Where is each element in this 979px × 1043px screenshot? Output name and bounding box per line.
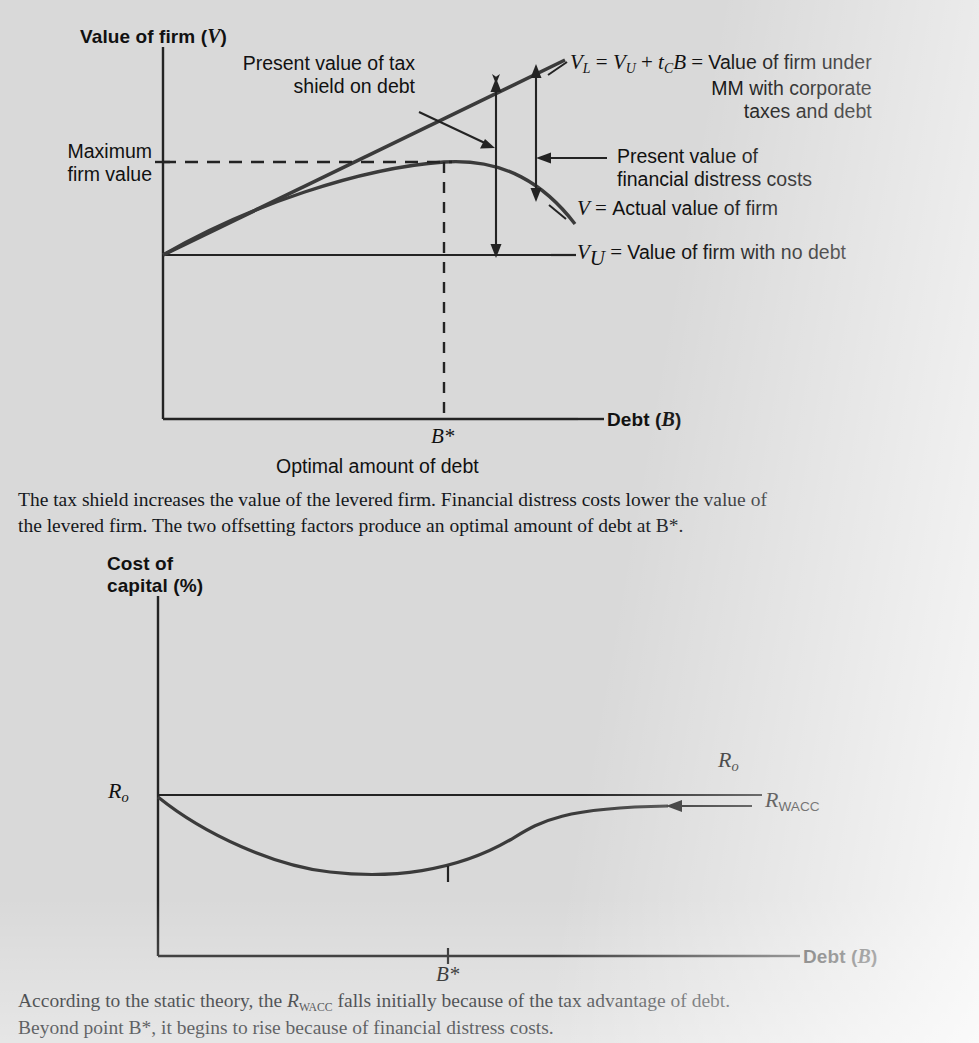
bottom-chart-b-star-tick-label: B* bbox=[436, 962, 459, 987]
bottom-x-axis-title-variable: B bbox=[857, 945, 870, 967]
bottom-chart-x-axis-title: Debt (B) bbox=[803, 945, 877, 969]
bottom-y-axis-title-line1: Cost of bbox=[107, 553, 203, 575]
rwacc-label: RWACC bbox=[765, 787, 820, 815]
r0-axis-label: Ro bbox=[108, 778, 129, 806]
rwacc-leader-arrowhead bbox=[666, 800, 682, 812]
r0-line-label: Ro bbox=[718, 747, 739, 775]
bottom-chart-y-axis-title: Cost of capital (%) bbox=[107, 553, 203, 598]
bottom-chart-graphics bbox=[0, 0, 979, 1043]
bottom-caption-rwacc: R bbox=[287, 990, 299, 1011]
bottom-caption-part1: According to the static theory, the bbox=[18, 990, 287, 1011]
bottom-x-axis-title-text: Debt ( bbox=[803, 946, 857, 967]
figure-page: Value of firm (V) Maximum firm value Pre… bbox=[0, 0, 979, 1043]
bottom-chart-caption: According to the static theory, the RWAC… bbox=[18, 988, 958, 1042]
bottom-x-axis-title-close: ) bbox=[871, 946, 877, 967]
bottom-y-axis-title-line2: capital (%) bbox=[107, 575, 203, 597]
rwacc-curve bbox=[158, 797, 668, 874]
